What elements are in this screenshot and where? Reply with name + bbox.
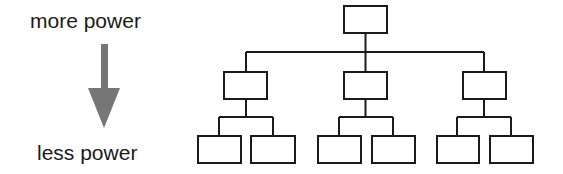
bottom-node-2 <box>251 136 295 163</box>
bottom-node-5 <box>437 136 479 163</box>
bottom-node-3 <box>318 136 361 163</box>
middle-node-3 <box>463 72 506 99</box>
middle-node-2 <box>344 72 387 99</box>
root-node <box>344 6 387 33</box>
middle-node-1 <box>224 72 267 99</box>
bottom-node-1 <box>198 136 241 163</box>
down-arrow-icon <box>88 44 120 128</box>
bottom-node-4 <box>372 136 415 163</box>
bottom-node-6 <box>490 136 533 163</box>
org-chart-diagram <box>0 0 563 174</box>
